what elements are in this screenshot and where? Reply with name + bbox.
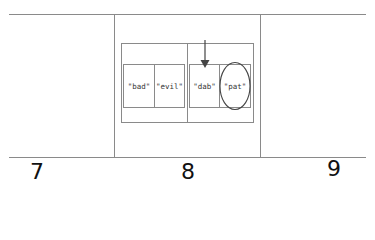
slot-label-9: 9: [327, 158, 341, 180]
highlight-ellipse: [220, 63, 250, 110]
down-arrow-icon: [201, 40, 210, 68]
slot-label-8: 8: [181, 161, 195, 183]
slot-label-7: 7: [30, 161, 44, 183]
